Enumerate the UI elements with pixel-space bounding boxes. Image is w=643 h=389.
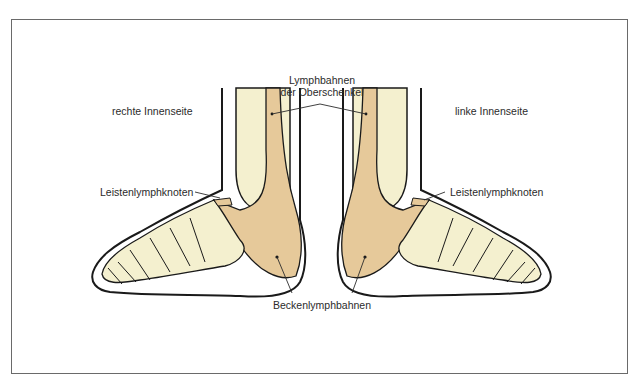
label-inguinal-nodes-left-foot: Leistenlymphknoten (450, 186, 543, 198)
label-thigh-lymph-line1: Lymphbahnen (272, 74, 372, 86)
label-inguinal-nodes-right-foot: Leistenlymphknoten (100, 186, 193, 198)
label-pelvic-lymph: Beckenlymphbahnen (262, 299, 382, 311)
label-right-inner-side: rechte Innenseite (112, 105, 193, 117)
label-left-inner-side: linke Innenseite (455, 105, 528, 117)
feet-illustration (0, 0, 643, 389)
label-thigh-lymph-line2: der Oberschenkel (262, 86, 382, 98)
